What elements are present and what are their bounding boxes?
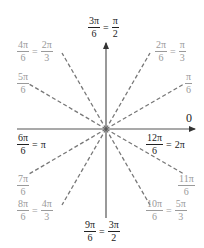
label-zero: 0 xyxy=(186,112,192,124)
label-angle-150: 5π6 xyxy=(17,72,29,95)
unit-circle-diagram: 0 3π6 = π2 2π6 = π3 π6 4π6 = 2π3 5π6 6π6… xyxy=(0,0,204,248)
label-angle-360: 12π6 = 2π xyxy=(146,133,185,156)
label-angle-240: 8π6 = 4π3 xyxy=(17,199,53,222)
label-angle-30: π6 xyxy=(185,72,192,95)
label-angle-330: 11π6 xyxy=(178,174,195,197)
label-angle-270: 9π6 = 3π2 xyxy=(84,220,120,243)
label-angle-300: 10π6 = 5π3 xyxy=(146,199,187,222)
label-angle-210: 7π6 xyxy=(17,174,29,197)
label-angle-180: 6π6 = π xyxy=(17,133,46,156)
label-angle-120: 4π6 = 2π3 xyxy=(17,40,53,63)
label-angle-60: 2π6 = π3 xyxy=(155,40,186,63)
label-angle-90: 3π6 = π2 xyxy=(88,16,119,39)
